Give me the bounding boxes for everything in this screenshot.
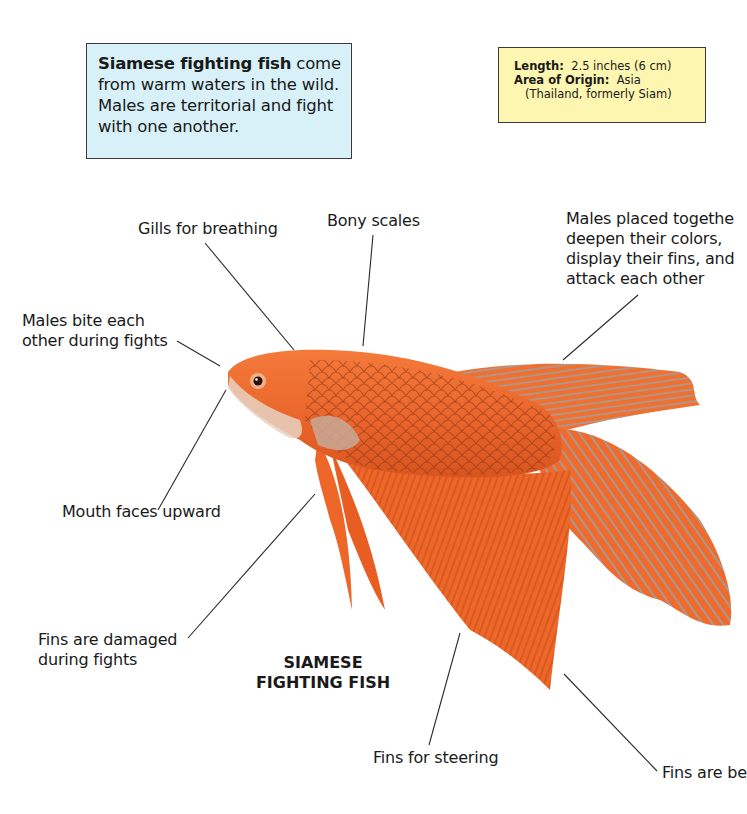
- callout-fins-bright: Fins are be: [662, 763, 747, 783]
- leader-males-together: [563, 295, 638, 360]
- length-value: 2.5 inches (6 cm): [571, 59, 671, 73]
- length-label: Length:: [514, 59, 564, 73]
- origin-row: Area of Origin: Asia: [514, 73, 705, 87]
- origin-detail: (Thailand, formerly Siam): [514, 87, 705, 101]
- leader-fins-bright: [564, 674, 657, 771]
- callout-mouth: Mouth faces upward: [62, 502, 221, 522]
- leader-gills: [205, 243, 294, 350]
- leader-scales: [363, 235, 373, 346]
- diagram-title: SIAMESE FIGHTING FISH: [248, 653, 398, 693]
- callout-damaged: Fins are damaged during fights: [38, 630, 177, 670]
- callout-bite: Males bite each other during fights: [22, 311, 168, 351]
- callout-gills: Gills for breathing: [138, 219, 278, 239]
- length-row: Length: 2.5 inches (6 cm): [514, 59, 705, 73]
- leader-bite: [177, 341, 220, 366]
- callout-scales: Bony scales: [327, 211, 420, 231]
- intro-bold-text: Siamese fighting fish: [98, 54, 291, 73]
- facts-info-box: Length: 2.5 inches (6 cm) Area of Origin…: [498, 47, 706, 123]
- ventral-fin: [315, 440, 352, 610]
- callout-males-together: Males placed togethe deepen their colors…: [566, 209, 735, 289]
- origin-label: Area of Origin:: [514, 73, 609, 87]
- leader-steering: [429, 633, 460, 745]
- callout-steering: Fins for steering: [373, 748, 498, 768]
- leader-mouth: [158, 390, 226, 510]
- intro-info-box: Siamese fighting fish come from warm wat…: [86, 43, 352, 159]
- origin-value: Asia: [617, 73, 641, 87]
